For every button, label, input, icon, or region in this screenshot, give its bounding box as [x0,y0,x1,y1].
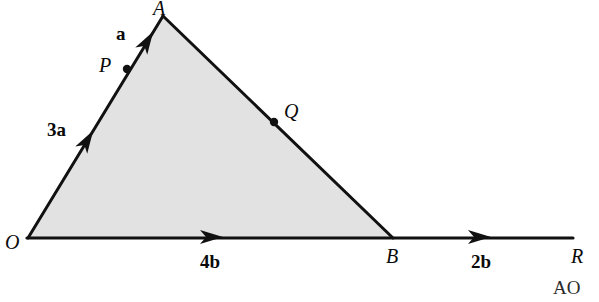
point-p-dot [123,65,131,73]
vector-label-a: a [116,24,126,43]
vector-label-2b: 2b [471,252,491,271]
vector-label-4b: 4b [200,252,220,271]
vertex-label-r: R [571,246,583,266]
vector-label-3a: 3a [47,120,66,139]
vertex-label-o: O [5,232,19,252]
vertex-label-a: A [153,0,165,18]
triangle-oab-fill [28,16,393,238]
vector-diagram [0,0,599,302]
point-label-p: P [99,55,111,75]
corner-watermark-text: AO [553,278,580,297]
vertex-label-b: B [386,246,398,266]
figure-canvas: O A B R P Q a 3a 4b 2b AO [0,0,599,302]
point-q-dot [270,118,278,126]
point-label-q: Q [284,101,298,121]
